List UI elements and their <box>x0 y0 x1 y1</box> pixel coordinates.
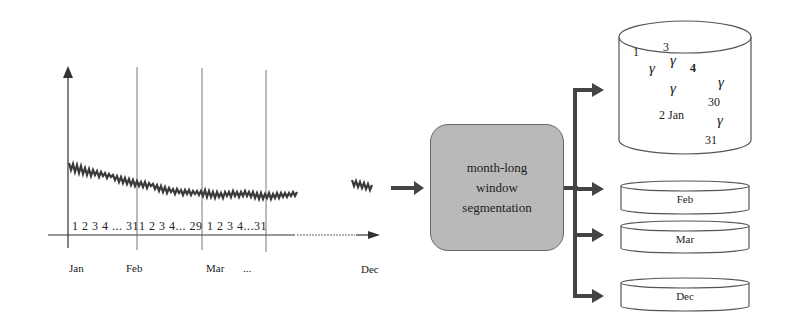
day-label-3: 3 <box>663 40 669 55</box>
process-line-2: window <box>462 178 531 198</box>
gamma-glyph: γ <box>670 52 676 69</box>
input-arrow <box>391 181 424 195</box>
diagram-canvas <box>0 0 790 332</box>
month-label-dec: Dec <box>361 263 379 275</box>
month-label-jan: Jan <box>69 262 84 274</box>
gamma-glyph: γ <box>717 112 723 129</box>
process-line-1: month-long <box>462 158 531 178</box>
day-label-2-jan: 2 Jan <box>659 108 684 123</box>
feb-cylinder-label: Feb <box>620 193 750 205</box>
day-label-31: 31 <box>705 133 717 148</box>
gamma-glyph: γ <box>670 80 676 97</box>
mar-day-range: 1 2 3 4...31 <box>207 219 267 234</box>
time-series-signal <box>69 163 399 199</box>
day-label-4: 4 <box>690 61 696 76</box>
day-label-30: 30 <box>708 95 720 110</box>
jan-day-range: 1 2 3 4 ... 31 <box>72 219 139 234</box>
process-line-3: segmentation <box>462 198 531 218</box>
jan-cylinder <box>619 21 751 154</box>
month-label-mar: Mar <box>206 262 224 274</box>
segmentation-process-box: month-long window segmentation <box>430 124 564 251</box>
dec-cylinder-label: Dec <box>620 290 750 302</box>
gamma-glyph: γ <box>718 74 724 91</box>
day-label-1: 1 <box>633 45 639 60</box>
month-label-ellipsis: ... <box>243 262 251 274</box>
output-bus <box>562 83 604 303</box>
mar-cylinder-label: Mar <box>620 233 750 245</box>
feb-day-range: 1 2 3 4... 29 <box>139 219 203 234</box>
gamma-glyph: γ <box>649 60 655 77</box>
month-label-feb: Feb <box>126 262 143 274</box>
